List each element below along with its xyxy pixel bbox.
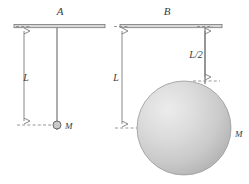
pendulum-comparison-figure: A L M B L L/2 M <box>0 0 249 184</box>
ceiling-support-b <box>120 25 222 28</box>
panel-letter-b: B <box>164 5 171 17</box>
length-label-a: L <box>22 72 29 83</box>
figure-canvas: A L M B L L/2 M <box>0 0 249 184</box>
mass-label-a: M <box>64 121 73 131</box>
point-mass-bob-a <box>53 121 61 129</box>
panel-a: A L M <box>14 5 105 131</box>
length-label-b: L <box>112 72 119 83</box>
spherical-mass-bob-b <box>137 81 231 175</box>
half-length-label-b: L/2 <box>188 49 202 60</box>
mass-label-b: M <box>234 129 243 139</box>
panel-letter-a: A <box>56 5 64 17</box>
panel-b: B L L/2 M <box>112 5 243 175</box>
